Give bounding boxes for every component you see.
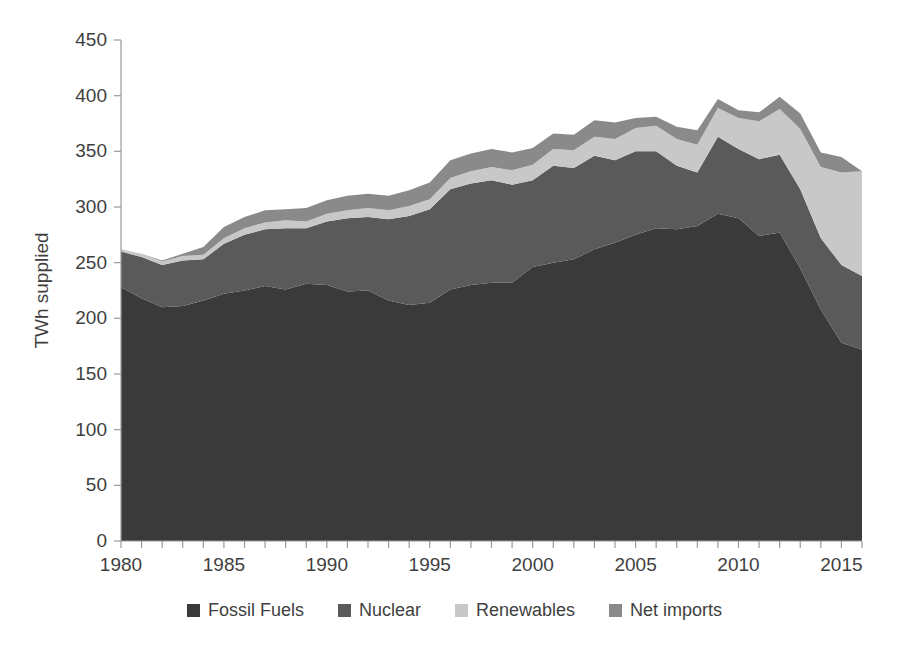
y-tick-label: 350 [75, 140, 107, 161]
legend-label: Nuclear [359, 600, 421, 621]
x-tick-label: 2010 [717, 554, 759, 575]
y-axis-title: TWh supplied [31, 232, 52, 348]
legend-swatch-icon [187, 604, 200, 617]
legend-label: Fossil Fuels [208, 600, 304, 621]
y-tick-label: 100 [75, 419, 107, 440]
y-tick-label: 50 [86, 474, 107, 495]
y-tick-label: 0 [96, 530, 107, 551]
legend-swatch-icon [609, 604, 622, 617]
y-tick-label: 450 [75, 29, 107, 50]
y-tick-label: 300 [75, 196, 107, 217]
stacked-areas-group [121, 97, 862, 541]
legend-swatch-icon [338, 604, 351, 617]
legend-item-fossil-fuels[interactable]: Fossil Fuels [187, 600, 304, 621]
x-tick-label: 1980 [100, 554, 142, 575]
x-tick-label: 2000 [512, 554, 554, 575]
chart-legend: Fossil FuelsNuclearRenewablesNet imports [0, 600, 909, 621]
chart-container: 050100150200250300350400450 198019851990… [0, 0, 909, 653]
x-tick-label: 1985 [203, 554, 245, 575]
y-axis-tick-labels: 050100150200250300350400450 [75, 29, 107, 551]
x-tick-label: 1995 [409, 554, 451, 575]
y-tick-label: 200 [75, 307, 107, 328]
y-tick-label: 250 [75, 252, 107, 273]
x-tick-label: 2015 [820, 554, 862, 575]
legend-label: Net imports [630, 600, 722, 621]
x-tick-label: 1990 [306, 554, 348, 575]
area-chart: 050100150200250300350400450 198019851990… [0, 0, 909, 653]
legend-item-net-imports[interactable]: Net imports [609, 600, 722, 621]
y-tick-label: 150 [75, 363, 107, 384]
y-tick-label: 400 [75, 85, 107, 106]
legend-item-nuclear[interactable]: Nuclear [338, 600, 421, 621]
x-tick-label: 2005 [614, 554, 656, 575]
legend-item-renewables[interactable]: Renewables [455, 600, 575, 621]
x-axis-tick-labels: 19801985199019952000200520102015 [100, 554, 863, 575]
legend-swatch-icon [455, 604, 468, 617]
legend-label: Renewables [476, 600, 575, 621]
